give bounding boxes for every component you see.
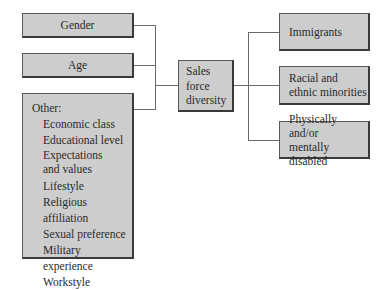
list-item: Religious affiliation [43, 194, 132, 226]
connector-right-trunk [248, 32, 249, 140]
list-item: Expectations and values [43, 148, 132, 178]
other-factors-list: Economic class Educational level Expecta… [23, 116, 132, 290]
list-item: Military experience [43, 242, 132, 274]
age-label: Age [68, 58, 87, 72]
connector-disabled [248, 140, 279, 141]
connector-racial [248, 85, 279, 86]
connector-to-center [155, 85, 179, 86]
list-item: Sexual preference [43, 226, 132, 242]
racial-label-line-1: Racial and [289, 71, 367, 85]
disabled-label-line-1: Physically and/or [289, 112, 368, 140]
other-factors-box: Other: Economic class Educational level … [22, 93, 134, 259]
connector-other [134, 109, 156, 110]
list-item: Lifestyle [43, 178, 132, 194]
sales-force-diversity-box: Sales force diversity [178, 60, 234, 112]
age-box: Age [22, 53, 134, 78]
center-label-line-3: diversity [186, 93, 232, 108]
immigrants-box: Immigrants [279, 13, 370, 51]
center-label-line-2: force [186, 79, 232, 94]
gender-label: Gender [61, 18, 95, 32]
center-label-line-1: Sales [186, 64, 232, 79]
connector-immigrants [248, 32, 279, 33]
disabled-label-line-2: mentally disabled [289, 140, 368, 168]
connector-age [134, 65, 156, 66]
disabled-box: Physically and/or mentally disabled [279, 121, 370, 159]
list-item: Economic class [43, 116, 132, 132]
racial-label-line-2: ethnic minorities [289, 85, 367, 99]
other-title: Other: [32, 100, 132, 116]
immigrants-label: Immigrants [289, 25, 342, 39]
connector-gender [134, 25, 156, 26]
list-item: Workstyle [43, 274, 132, 290]
racial-ethnic-minorities-box: Racial and ethnic minorities [279, 66, 370, 105]
gender-box: Gender [22, 13, 134, 38]
connector-left-trunk [155, 25, 156, 110]
list-item: Educational level [43, 132, 132, 148]
